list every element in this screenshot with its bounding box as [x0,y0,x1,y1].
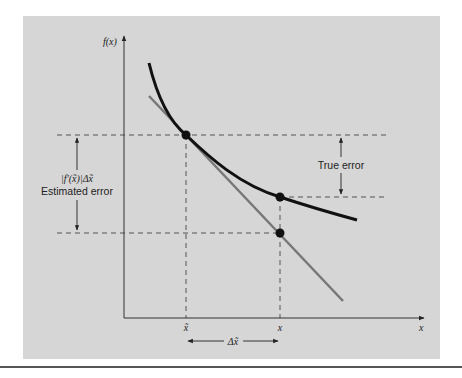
bottom-rule [0,366,462,368]
delta-label: Δx̃ [227,336,239,347]
estimated-error-label: Estimated error [41,185,113,197]
true-error-label: True error [318,159,365,171]
estimated-error-formula: |f′(x̃)|Δx̃ [61,173,93,185]
x-axis-label: x [418,322,424,333]
x-tick-true: x [277,322,283,333]
error-estimation-diagram: True error |f′(x̃)|Δx̃ Estimated error f… [0,0,462,378]
point-true [276,193,285,202]
point-approx [182,131,191,140]
x-tick-approx: x̃ [183,322,189,333]
point-tangent-estimate [276,229,285,238]
y-axis-label: f(x) [103,36,118,48]
